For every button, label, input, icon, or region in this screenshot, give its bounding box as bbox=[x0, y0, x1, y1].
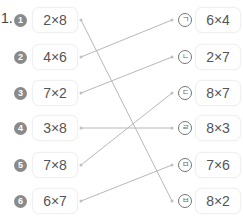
right-dot-1[interactable] bbox=[171, 19, 174, 22]
left-dot-4[interactable] bbox=[80, 127, 83, 130]
left-dot-3[interactable] bbox=[80, 92, 83, 95]
line-1-to-bieup bbox=[81, 20, 172, 201]
right-expression-box[interactable]: 2×7 bbox=[195, 44, 241, 70]
right-expression-box[interactable]: 8×3 bbox=[195, 115, 241, 141]
right-dot-4[interactable] bbox=[171, 127, 174, 130]
line-6-to-mieum bbox=[81, 165, 172, 201]
left-dot-5[interactable] bbox=[80, 164, 83, 167]
korean-letter-label: ㄹ bbox=[178, 121, 192, 135]
number-badge: 2 bbox=[14, 51, 27, 64]
number-badge: 4 bbox=[14, 122, 27, 135]
left-expression-box[interactable]: 6×7 bbox=[32, 188, 78, 214]
number-badge: 3 bbox=[14, 87, 27, 100]
left-expression-box[interactable]: 7×8 bbox=[32, 152, 78, 178]
left-expression-box[interactable]: 3×8 bbox=[32, 115, 78, 141]
right-dot-6[interactable] bbox=[171, 200, 174, 203]
left-dot-2[interactable] bbox=[80, 56, 83, 59]
line-2-to-giyeok bbox=[81, 20, 172, 57]
korean-letter-label: ㄷ bbox=[178, 86, 192, 100]
line-3-to-nieun bbox=[81, 57, 172, 93]
korean-letter-label: ㄴ bbox=[178, 50, 192, 64]
korean-letter-label: ㅂ bbox=[178, 194, 192, 208]
korean-letter-label: ㄱ bbox=[178, 13, 192, 27]
right-expression-box[interactable]: 8×7 bbox=[195, 80, 241, 106]
right-dot-3[interactable] bbox=[171, 92, 174, 95]
right-expression-box[interactable]: 8×2 bbox=[195, 188, 241, 214]
left-dot-1[interactable] bbox=[80, 19, 83, 22]
number-badge: 6 bbox=[14, 195, 27, 208]
line-5-to-digeut bbox=[81, 93, 172, 165]
left-expression-box[interactable]: 2×8 bbox=[32, 7, 78, 33]
left-expression-box[interactable]: 7×2 bbox=[32, 80, 78, 106]
left-expression-box[interactable]: 4×6 bbox=[32, 44, 78, 70]
right-expression-box[interactable]: 6×4 bbox=[195, 7, 241, 33]
left-dot-6[interactable] bbox=[80, 200, 83, 203]
right-dot-2[interactable] bbox=[171, 56, 174, 59]
right-dot-5[interactable] bbox=[171, 164, 174, 167]
right-expression-box[interactable]: 7×6 bbox=[195, 152, 241, 178]
number-badge: 5 bbox=[14, 159, 27, 172]
number-badge: 1 bbox=[14, 14, 27, 27]
korean-letter-label: ㅁ bbox=[178, 158, 192, 172]
